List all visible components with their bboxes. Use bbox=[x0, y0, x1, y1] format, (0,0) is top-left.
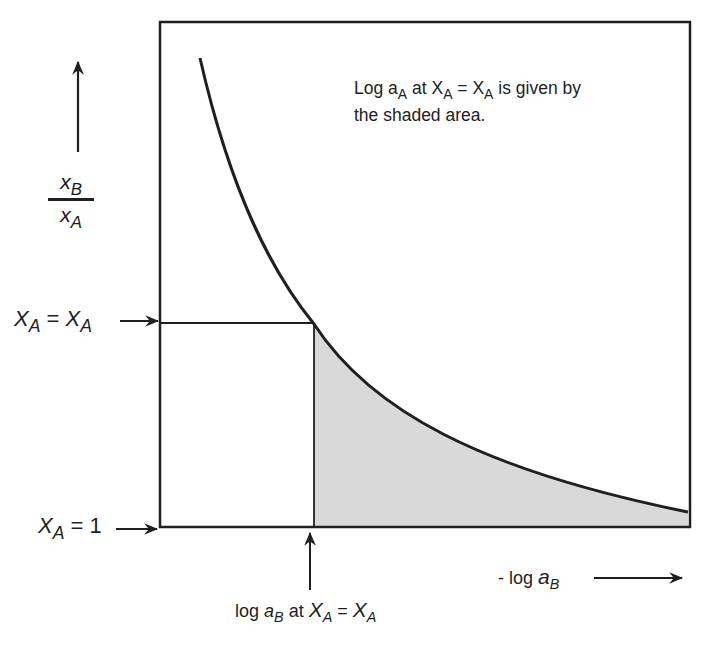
var: x bbox=[60, 170, 71, 193]
note-sub: A bbox=[398, 86, 407, 102]
note-text: Log a bbox=[354, 78, 398, 98]
y-axis-label: xB xA bbox=[46, 170, 96, 227]
var: X bbox=[38, 513, 53, 538]
note-line-1: Log aA at XA = XA is given by bbox=[354, 75, 674, 102]
sub: A bbox=[53, 523, 65, 543]
eq: = bbox=[332, 601, 353, 621]
shaded-area-note: Log aA at XA = XA is given by the shaded… bbox=[354, 75, 674, 129]
var: a bbox=[264, 601, 274, 621]
note-text: = X bbox=[452, 78, 484, 98]
text: - log bbox=[498, 568, 538, 588]
var: X bbox=[309, 598, 323, 621]
note-text: is given by bbox=[493, 78, 581, 98]
var: x bbox=[60, 203, 71, 226]
sub: A bbox=[71, 213, 82, 232]
text: at bbox=[284, 601, 309, 621]
var: X bbox=[14, 306, 29, 331]
text: log bbox=[235, 601, 264, 621]
var: X bbox=[353, 598, 367, 621]
var: a bbox=[538, 565, 550, 588]
var: X bbox=[66, 306, 81, 331]
sub: A bbox=[323, 609, 333, 625]
sub: B bbox=[550, 576, 560, 592]
x-axis-label: - log aB bbox=[498, 565, 559, 589]
shaded-area bbox=[314, 324, 688, 527]
y-label-denominator: xA bbox=[46, 201, 96, 227]
note-text: at X bbox=[407, 78, 443, 98]
sub: B bbox=[71, 180, 82, 199]
sub: A bbox=[29, 316, 41, 336]
note-line-2: the shaded area. bbox=[354, 102, 674, 129]
sub: A bbox=[367, 609, 377, 625]
x-marker-label: log aB at XA = XA bbox=[235, 598, 376, 622]
lower-marker-label: XA = 1 bbox=[38, 513, 102, 539]
eq: = 1 bbox=[64, 513, 101, 538]
y-label-numerator: xB bbox=[46, 170, 96, 198]
eq: = bbox=[40, 306, 65, 331]
upper-marker-label: XA = XA bbox=[14, 306, 92, 332]
sub: B bbox=[274, 609, 284, 625]
sub: A bbox=[80, 316, 92, 336]
